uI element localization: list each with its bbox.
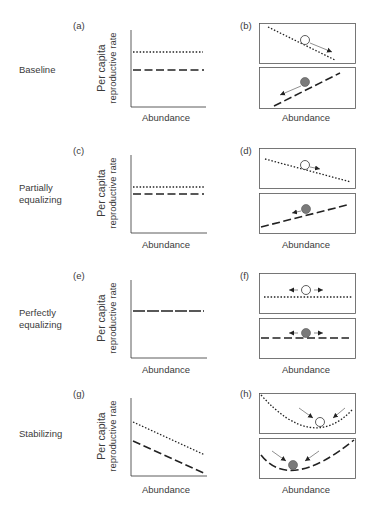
species2-dashed-curve [261,440,354,470]
x-axis-label-c: Abundance [121,239,211,250]
x-axis-label-a: Abundance [121,112,211,123]
panel-label-h: (h) [240,388,252,399]
arrow-right [310,43,332,52]
panel-label-f: (f) [240,270,249,281]
y-axis-label-g: Per capita reproductive rate [96,396,126,476]
arrow-down-left [333,408,345,418]
arrow-down-right [299,408,313,418]
row-label-perfectly-equalizing: Perfectly equalizing [19,307,62,331]
row-label-baseline: Baseline [19,64,55,76]
panel-label-d: (d) [240,145,252,156]
panel-g-plot [131,398,207,476]
row-label-line1: Perfectly [19,307,62,319]
species1-dotted-line [133,422,205,455]
panel-label-e: (e) [73,270,85,281]
bottom-box [260,439,356,479]
row-label-line1: Partially [19,182,62,194]
panel-h-diagram [260,394,356,479]
species2-dashed-line [133,441,206,474]
y-axis-label-a: Per capita reproductive rate [96,28,126,108]
panel-label-a: (a) [73,20,85,31]
grey-circle [302,205,311,214]
x-axis-label-d: Abundance [261,239,351,250]
x-axis-label-f: Abundance [261,364,351,375]
row-label-line2: equalizing [19,194,62,206]
grey-circle [302,329,311,338]
arrow-left [292,211,301,213]
grey-circle [301,78,310,87]
arrow-down-right [272,451,286,461]
panel-f-diagram [260,274,356,359]
panel-b-diagram [260,24,356,109]
y-axis-label-e: Per capita reproductive rate [96,278,126,358]
panel-d-diagram [260,149,356,234]
x-axis-label-e: Abundance [121,364,211,375]
arrow-down-left [305,451,319,461]
panel-label-c: (c) [73,145,84,156]
panel-c-plot [131,155,207,233]
open-circle [302,286,311,295]
grey-circle [289,461,298,470]
open-circle [301,161,310,170]
row-label-partially-equalizing: Partially equalizing [19,182,62,206]
x-axis-label-b: Abundance [261,112,351,123]
x-axis-label-g: Abundance [121,484,211,495]
panel-e-plot [131,280,207,358]
panel-label-g: (g) [73,388,85,399]
species1-dotted-curve [261,395,352,428]
panel-a-plot [131,30,206,107]
panel-label-b: (b) [240,20,252,31]
x-axis-label-h: Abundance [261,484,351,495]
arrow-right [310,167,320,169]
species1-dotted-line [268,27,335,60]
row-label-stabilizing: Stabilizing [19,428,62,440]
y-axis-label-c: Per capita reproductive rate [96,153,126,233]
row-label-line2: equalizing [19,319,62,331]
open-circle [301,36,310,45]
bottom-box [260,68,356,109]
open-circle [316,418,325,427]
